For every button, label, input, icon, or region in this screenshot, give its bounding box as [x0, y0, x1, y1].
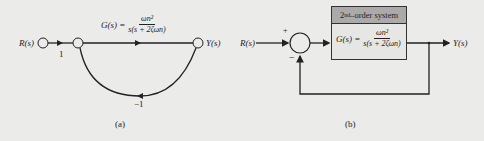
feedback-gain-a: −1 — [134, 100, 144, 109]
forward-gain-a: G(s) = ωn² s(s + 2ζωn) — [101, 15, 166, 34]
caption-b: (b) — [345, 120, 356, 129]
diagram-lines — [0, 0, 484, 141]
forward-gain-label: G(s) = — [101, 20, 125, 30]
output-label-a: Y(s) — [206, 39, 221, 48]
block-gain-numerator: ωn² — [374, 29, 390, 39]
sum-plus-sign: + — [283, 27, 288, 35]
block-gain-label: G(s) = — [336, 34, 360, 44]
forward-gain-denominator: s(s + 2ζωn) — [128, 25, 165, 35]
signal-flow-graph — [38, 38, 203, 99]
input-label-a: R(s) — [19, 39, 34, 48]
forward-gain-numerator: ωn² — [139, 15, 155, 25]
header-text: –order system — [350, 10, 398, 20]
block-gain-denominator: s(s + 2ζωn) — [363, 39, 400, 49]
output-label-b: Y(s) — [453, 39, 468, 48]
caption-a: (a) — [115, 120, 125, 129]
block-gain-b: G(s) = ωn² s(s + 2ζωn) — [336, 29, 401, 48]
input-branch-gain: 1 — [59, 50, 64, 59]
block-header: 2nd–order system — [331, 6, 407, 24]
sum-minus-sign: − — [289, 53, 295, 63]
input-label-b: R(s) — [240, 39, 255, 48]
